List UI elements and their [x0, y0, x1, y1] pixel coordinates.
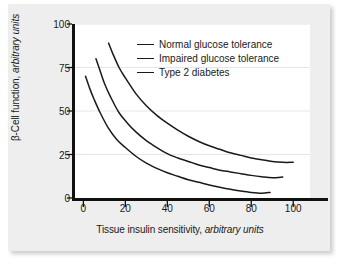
x-tick-label: 40 — [150, 203, 184, 214]
x-tick-label: 100 — [276, 203, 310, 214]
legend-label: Impaired glucose tolerance — [159, 53, 279, 64]
series-line-2 — [85, 76, 270, 193]
legend-item-2: Type 2 diabetes — [137, 66, 279, 79]
x-axis-title-plain: Tissue insulin sensitivity, — [96, 224, 202, 235]
x-axis-title: Tissue insulin sensitivity, arbitrary un… — [40, 224, 320, 235]
legend-item-0: Normal glucose tolerance — [137, 38, 279, 51]
chart-legend: Normal glucose toleranceImpaired glucose… — [137, 38, 279, 80]
legend-label: Type 2 diabetes — [159, 67, 230, 78]
y-tick-labels: 0255075100 — [40, 0, 70, 265]
y-axis-title-plain: β-Cell function, — [10, 76, 21, 141]
figure-root: β-Cell function, arbitrary units Tissue … — [0, 0, 341, 265]
y-axis-title-italic: arbitrary units — [10, 14, 21, 73]
y-tick-label: 0 — [44, 193, 70, 204]
y-tick-label: 25 — [44, 149, 70, 160]
legend-label: Normal glucose tolerance — [159, 39, 272, 50]
x-tick-label: 80 — [234, 203, 268, 214]
x-tick-label: 0 — [66, 203, 100, 214]
legend-item-1: Impaired glucose tolerance — [137, 52, 279, 65]
x-tick-labels: 020406080100 — [0, 203, 341, 219]
x-tick-label: 60 — [192, 203, 226, 214]
legend-line-swatch — [137, 44, 154, 45]
legend-line-swatch — [137, 58, 154, 59]
y-tick-label: 100 — [44, 19, 70, 30]
x-tick-label: 20 — [108, 203, 142, 214]
y-axis-title: β-Cell function, arbitrary units — [10, 0, 21, 178]
legend-line-swatch — [137, 72, 154, 73]
y-tick-label: 75 — [44, 62, 70, 73]
x-axis-title-italic: arbitrary units — [205, 224, 264, 235]
y-tick-label: 50 — [44, 106, 70, 117]
